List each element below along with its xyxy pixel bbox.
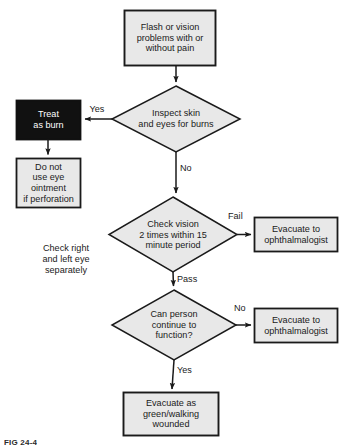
- node-evac-no-shape: [255, 309, 338, 343]
- node-inspect-shape: [112, 86, 240, 152]
- edge-label-pass-vision: Pass: [177, 274, 205, 285]
- note-check-eyes-separately: Check right and left eye separately: [20, 243, 112, 276]
- node-start-shape: [125, 11, 216, 66]
- node-evac-fail-shape: [255, 218, 338, 252]
- edge-label-no-burn: No: [180, 163, 200, 174]
- edge-label-yes-burn: Yes: [84, 104, 110, 115]
- edge-label-no-function: No: [234, 303, 254, 314]
- node-treat-burn-shape: [17, 101, 81, 140]
- figure-caption: FIG 24-4: [4, 438, 37, 448]
- edge-label-fail-vision: Fail: [228, 211, 254, 222]
- flowchart-diagram: [0, 0, 343, 448]
- edge-label-yes-function: Yes: [177, 365, 203, 376]
- edge-can-function-to-evac-green: [172, 360, 174, 389]
- flowchart-canvas: Flash or vision problems with or without…: [0, 0, 343, 448]
- node-check-vision-shape: [109, 197, 237, 272]
- node-can-function-shape: [112, 290, 236, 360]
- node-evac-green-shape: [124, 393, 219, 436]
- edge-check-vision-to-can-function: [173, 272, 174, 286]
- node-no-ointment-shape: [17, 159, 81, 208]
